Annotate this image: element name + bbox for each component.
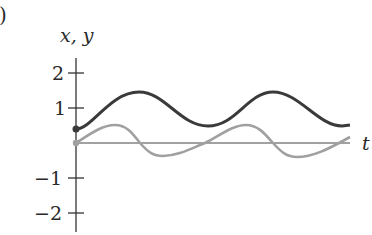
ytick-1: 1 bbox=[54, 97, 66, 119]
series-x-line bbox=[76, 92, 350, 129]
chart: ) x, y 2 1 −1 −2 t bbox=[0, 0, 372, 235]
panel-label: ) bbox=[0, 3, 7, 27]
series-x-start-point bbox=[73, 126, 80, 133]
x-axis-label: t bbox=[362, 132, 370, 154]
ytick-2: 2 bbox=[52, 62, 64, 84]
y-axis-label: x, y bbox=[60, 24, 94, 46]
ytick-neg2: −2 bbox=[34, 202, 62, 224]
ytick-neg1: −1 bbox=[34, 167, 62, 189]
series-y-line bbox=[76, 125, 350, 157]
series-y-start-point bbox=[73, 140, 79, 146]
